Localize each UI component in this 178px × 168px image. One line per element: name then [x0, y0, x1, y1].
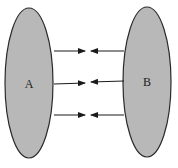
set-a-label: A: [25, 78, 34, 90]
arrow-a-to-center-2: [54, 83, 85, 84]
set-b-label: B: [143, 76, 151, 88]
arrows-layer: [54, 51, 124, 115]
arrow-b-to-center-3: [91, 81, 124, 82]
diagram-canvas: A B: [0, 0, 178, 168]
